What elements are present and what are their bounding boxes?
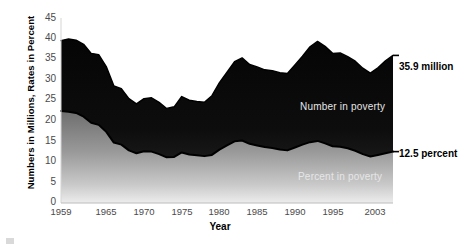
x-tick-1970: 1970 bbox=[124, 207, 164, 217]
x-tick-1995: 1995 bbox=[313, 207, 353, 217]
x-tick-1965: 1965 bbox=[86, 207, 126, 217]
number-end-callout: 35.9 million bbox=[399, 61, 453, 72]
number-in-poverty-inline-label: Number in poverty bbox=[300, 101, 385, 112]
x-tick-1990: 1990 bbox=[275, 207, 315, 217]
percent-in-poverty-inline-label: Percent in poverty bbox=[298, 171, 382, 182]
x-tick-2003: 2003 bbox=[355, 207, 395, 217]
x-axis-title: Year bbox=[0, 221, 440, 232]
x-tick-1980: 1980 bbox=[199, 207, 239, 217]
x-tick-1959: 1959 bbox=[41, 207, 81, 217]
percent-end-callout: 12.5 percent bbox=[399, 148, 457, 159]
poverty-chart-figure: Numbers in Millions, Rates in Percent 45… bbox=[0, 0, 474, 248]
x-tick-1985: 1985 bbox=[237, 207, 277, 217]
x-tick-1975: 1975 bbox=[162, 207, 202, 217]
footer-mark bbox=[6, 238, 14, 244]
